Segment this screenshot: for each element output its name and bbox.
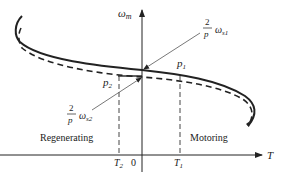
dashed-curve	[19, 28, 252, 122]
svg-text:2: 2	[205, 17, 210, 27]
regenerating-label: Regenerating	[40, 132, 93, 143]
p1-label: p1	[176, 57, 186, 71]
motoring-label: Motoring	[190, 132, 228, 143]
origin-label: 0	[131, 157, 136, 168]
ws2-label: 2 p ωs2	[67, 103, 93, 125]
svg-text:ωs2: ωs2	[79, 110, 93, 123]
ws1-leader	[144, 33, 200, 69]
solid-curve-arrow-tip	[246, 121, 250, 127]
ws2-leader	[92, 78, 141, 110]
torque-speed-diagram: ωm T 0 T2 T1 p1 p2 2 p ωs1 2 p ωs2 Regen…	[0, 0, 283, 176]
p2-label: p2	[102, 76, 113, 90]
ws1-label: 2 p ωs1	[203, 17, 228, 39]
svg-text:p: p	[203, 29, 209, 39]
svg-text:p: p	[67, 115, 73, 125]
svg-text:ωs1: ωs1	[215, 24, 228, 37]
diagram-canvas: ωm T 0 T2 T1 p1 p2 2 p ωs1 2 p ωs2 Regen…	[0, 0, 283, 176]
x-axis-label: T	[267, 149, 274, 161]
T1-label: T1	[174, 157, 183, 170]
T2-label: T2	[114, 157, 124, 170]
svg-text:2: 2	[69, 103, 74, 113]
y-axis-label: ωm	[118, 7, 132, 21]
